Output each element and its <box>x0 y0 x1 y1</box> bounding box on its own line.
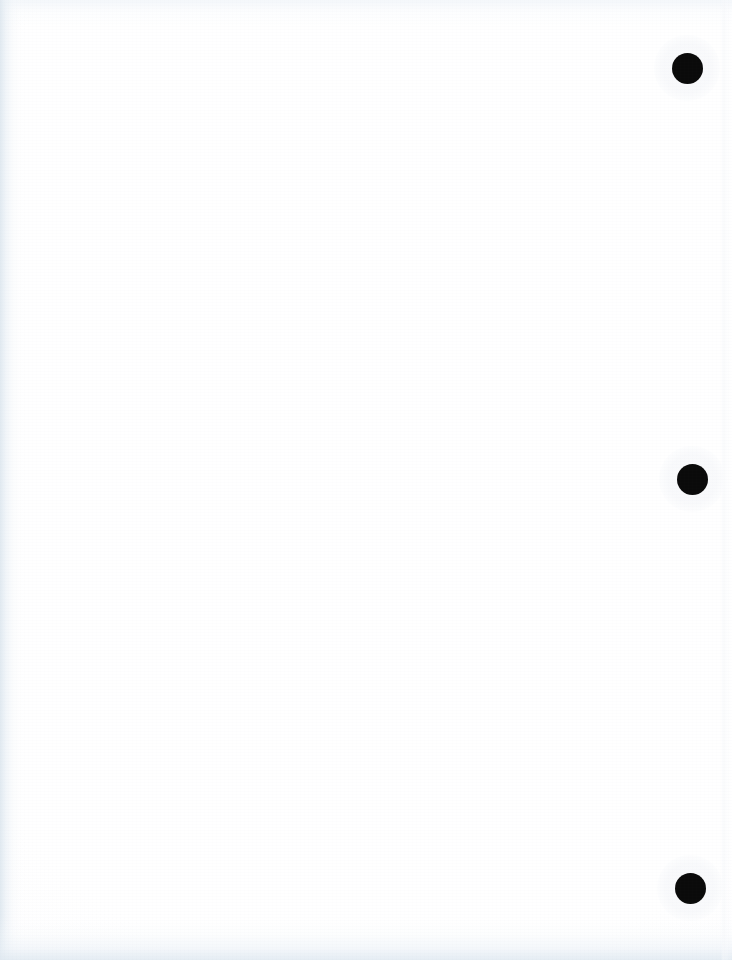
scan-shadow-top <box>0 0 732 26</box>
punch-mark-bottom <box>675 873 706 904</box>
punch-mark-middle <box>677 464 708 495</box>
scanned-page: blank page — no visible text, figures, o… <box>0 0 732 960</box>
scan-edge-left <box>0 0 7 960</box>
scan-shadow-bottom <box>0 914 732 960</box>
punch-mark-top <box>672 53 703 84</box>
page-content-area <box>52 54 652 894</box>
